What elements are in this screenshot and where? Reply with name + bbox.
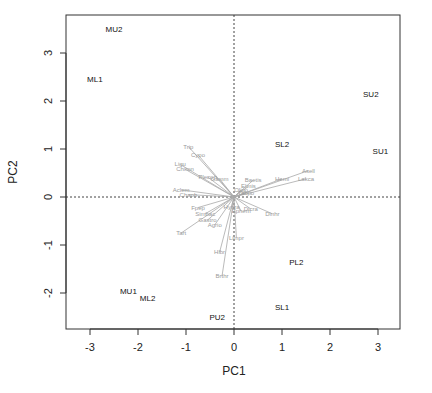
- variable-label: Chaob: [180, 192, 198, 198]
- variable-label: Brthr: [215, 273, 228, 279]
- observation-label: PL2: [289, 258, 304, 267]
- y-tick-label: 1: [42, 146, 54, 152]
- x-tick-label: 0: [231, 341, 237, 353]
- x-tick-label: 3: [375, 341, 381, 353]
- variable-label: Gamm: [211, 176, 229, 182]
- variable-label: Baetis: [245, 177, 262, 183]
- variable-label: Trip: [183, 144, 194, 150]
- pca-biplot: TripCypoLiguChironPlecopGammAclemChaobAs…: [0, 0, 432, 393]
- observation-label: SU1: [373, 147, 389, 156]
- y-tick-label: -2: [42, 288, 54, 298]
- observation-label: SU2: [363, 90, 379, 99]
- variable-label: Tart: [176, 230, 186, 236]
- y-tick-label: 3: [42, 50, 54, 56]
- observation-label: SL1: [275, 303, 290, 312]
- observation-label: MU1: [120, 287, 137, 296]
- variable-label: Asell: [302, 168, 315, 174]
- x-tick-label: -2: [133, 341, 143, 353]
- observation-label: ML1: [87, 75, 103, 84]
- variable-label: Lakca: [298, 176, 315, 182]
- variable-label: Dinhr: [265, 211, 279, 217]
- variable-label: Tabpo: [238, 190, 255, 196]
- variable-label: Ephem: [232, 208, 251, 214]
- y-axis-title: PC2: [6, 160, 20, 184]
- variable-label: Limpr: [229, 235, 244, 241]
- variable-label: Cypo: [191, 152, 206, 158]
- observation-label: SL2: [275, 140, 290, 149]
- observation-label: PU2: [209, 313, 225, 322]
- variable-label: Hlbr: [214, 249, 225, 255]
- x-tick-label: -3: [85, 341, 95, 353]
- x-axis-title: PC1: [222, 364, 246, 378]
- variable-label: Fpep: [191, 205, 205, 211]
- variable-label: Agrio: [208, 222, 223, 228]
- variable-label: Hemi: [275, 176, 289, 182]
- observation-label: ML2: [140, 294, 156, 303]
- y-tick-label: -1: [42, 240, 54, 250]
- x-tick-label: 2: [327, 341, 333, 353]
- y-tick-label: 2: [42, 98, 54, 104]
- x-tick-label: 1: [279, 341, 285, 353]
- variable-label: Simbac: [195, 211, 215, 217]
- y-tick-label: 0: [42, 194, 54, 200]
- x-tick-label: -1: [181, 341, 191, 353]
- variable-label: Chiron: [176, 166, 194, 172]
- observation-label: MU2: [106, 25, 123, 34]
